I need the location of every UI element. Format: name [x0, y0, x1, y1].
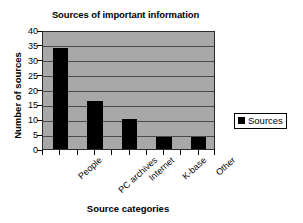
y-axis-tick-label: 25: [12, 71, 38, 81]
chart-title: Sources of important information: [28, 9, 223, 20]
gridline: [43, 106, 214, 107]
x-axis-title: Source categories: [38, 203, 218, 214]
y-axis-tick-label: 40: [12, 26, 38, 36]
x-axis-category-label: People: [76, 155, 104, 181]
y-axis-tick-label: 10: [12, 115, 38, 125]
x-axis-category-label: Other: [213, 155, 236, 177]
bar: [156, 137, 172, 149]
x-axis-category-label: K-base: [180, 155, 208, 182]
y-axis-tick-label: 5: [12, 130, 38, 140]
legend-item-label: Sources: [248, 116, 283, 126]
y-axis-tick-label: 30: [12, 56, 38, 66]
gridline: [43, 91, 214, 92]
bar-chart: Sources of important information Number …: [0, 0, 303, 223]
y-axis-tick-label: 20: [12, 86, 38, 96]
bar: [122, 119, 138, 149]
y-axis-tick-label: 35: [12, 41, 38, 51]
gridline: [43, 46, 214, 47]
chart-legend: Sources: [234, 113, 287, 129]
x-axis-category-labels: PeoplePC archivesInternetK-baseOther: [42, 155, 222, 200]
y-axis-tick-labels: 0510152025303540: [10, 31, 38, 150]
y-axis-tick-label: 15: [12, 100, 38, 110]
bar: [87, 101, 103, 149]
bar: [191, 137, 207, 149]
plot-inner: [43, 32, 214, 149]
plot-area: [42, 31, 215, 150]
gridline: [43, 76, 214, 77]
bar: [53, 48, 69, 149]
gridline: [43, 61, 214, 62]
y-axis-tick-label: 0: [12, 145, 38, 155]
legend-color-swatch: [238, 117, 245, 124]
